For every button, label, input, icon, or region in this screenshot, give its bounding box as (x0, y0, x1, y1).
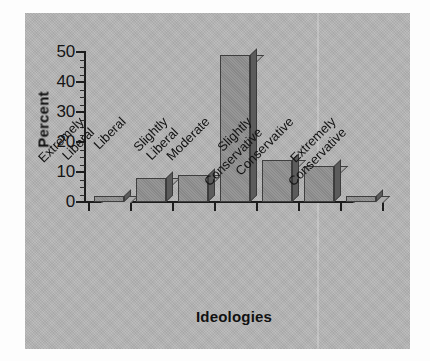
y-axis-minor-tick (80, 67, 85, 68)
y-axis-tick-label: 50 (45, 43, 75, 60)
chart-page: 01020304050 ExtremelyLiberalLiberalSligh… (0, 0, 430, 361)
y-axis-title: Percent (35, 80, 52, 160)
y-axis-minor-tick (80, 180, 85, 181)
bar[interactable] (346, 189, 376, 202)
x-axis-tick (298, 203, 300, 211)
y-axis-minor-tick (80, 97, 85, 98)
x-axis-tick (382, 203, 384, 211)
x-axis-title: Ideologies (84, 308, 384, 325)
y-axis-minor-tick (80, 60, 85, 61)
y-axis-tick (76, 51, 85, 53)
bar-front-face (346, 196, 376, 202)
bar-side-face (334, 159, 341, 202)
plot-area: 01020304050 ExtremelyLiberalLiberalSligh… (25, 13, 410, 349)
chart-panel: 01020304050 ExtremelyLiberalLiberalSligh… (25, 13, 410, 349)
y-axis-minor-tick (80, 105, 85, 106)
y-axis-minor-tick (80, 90, 85, 91)
y-axis-tick (76, 111, 85, 113)
y-axis-tick (76, 81, 85, 83)
x-axis-tick (340, 203, 342, 211)
y-axis-tick-label-wrap: 50 (37, 43, 75, 60)
y-axis-minor-tick (80, 75, 85, 76)
